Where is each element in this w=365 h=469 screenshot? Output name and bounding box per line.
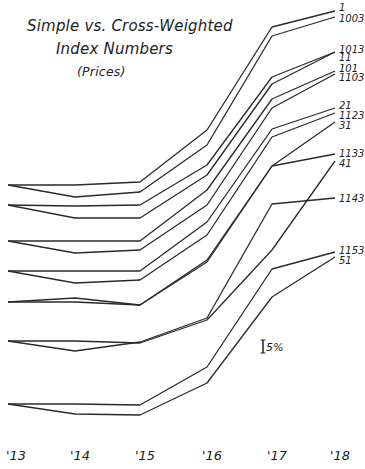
series-label: 31 bbox=[339, 120, 352, 131]
x-axis-ticks: '13'14'15'16'17'18 bbox=[6, 448, 350, 463]
x-tick-label: '14 bbox=[70, 448, 90, 463]
series-line-51 bbox=[8, 257, 335, 415]
x-tick-label: '15 bbox=[135, 448, 155, 463]
series-line-1013 bbox=[8, 52, 335, 206]
x-tick-label: '17 bbox=[267, 448, 288, 463]
series-line-11 bbox=[8, 52, 335, 218]
series-line-1003 bbox=[8, 17, 335, 197]
x-tick-label: '18 bbox=[330, 448, 350, 463]
scale-indicator: 5% bbox=[261, 340, 284, 354]
series-line-31 bbox=[8, 122, 335, 305]
series-line-41 bbox=[8, 161, 335, 343]
series-label: 41 bbox=[339, 158, 352, 169]
series-labels: 1100310131110111032111233111334111431153… bbox=[339, 2, 364, 266]
x-tick-label: '16 bbox=[202, 448, 222, 463]
x-tick-label: '13 bbox=[6, 448, 26, 463]
scale-label: 5% bbox=[266, 341, 283, 354]
series-label: 1103 bbox=[339, 72, 364, 83]
series-label: 1003 bbox=[339, 13, 364, 24]
line-chart: 1100310131110111032111233111334111431153… bbox=[0, 0, 365, 469]
series-line-1143 bbox=[8, 198, 335, 351]
series-label: 51 bbox=[339, 255, 352, 266]
series-label: 11 bbox=[339, 52, 352, 63]
series-lines bbox=[8, 11, 335, 415]
series-label: 1143 bbox=[339, 193, 364, 204]
series-line-1153 bbox=[8, 252, 335, 405]
series-line-1 bbox=[8, 11, 335, 185]
series-line-21 bbox=[8, 108, 335, 271]
series-label: 1 bbox=[339, 2, 345, 13]
